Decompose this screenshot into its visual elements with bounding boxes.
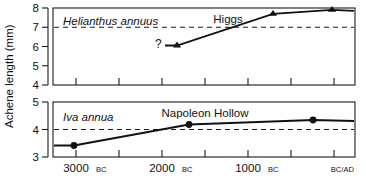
- upper-ytick-label-8: 8: [33, 2, 39, 14]
- lower-panel-y-axis: 5 4 3: [33, 96, 48, 163]
- x-axis-labels: 3000 BC 2000 BC 1000 BC BC/AD: [63, 162, 354, 174]
- lower-ytick-label-3: 3: [33, 151, 39, 163]
- lower-panel-site-label: Napoleon Hollow: [162, 107, 250, 119]
- achene-length-figure: Achene length (mm) 8 7 6 5 4: [0, 0, 366, 181]
- upper-ytick-label-5: 5: [33, 60, 39, 72]
- lower-panel-x-ticks: [76, 150, 334, 157]
- upper-ytick-label-4: 4: [33, 79, 40, 91]
- upper-ytick-label-7: 7: [33, 21, 39, 33]
- xtick-era-3000: BC: [96, 165, 107, 174]
- upper-panel: 8 7 6 5 4 Helianthus annuus: [33, 2, 355, 91]
- upper-panel-site-label: Higgs: [213, 13, 243, 25]
- chart-svg: Achene length (mm) 8 7 6 5 4: [0, 0, 366, 181]
- xtick-label-3000: 3000: [63, 162, 89, 174]
- upper-data-point-3: [328, 6, 336, 12]
- lower-ytick-label-5: 5: [33, 96, 39, 108]
- xtick-label-2000: 2000: [149, 162, 175, 174]
- lower-series-line: [54, 120, 354, 146]
- lower-panel: 5 4 3 Iva annua Napoleon Hollow: [33, 96, 355, 163]
- upper-panel-y-axis: 8 7 6 5 4: [33, 2, 48, 91]
- x-axis-label-group-bcad: BC/AD: [331, 165, 355, 174]
- xtick-era-2000: BC: [182, 165, 193, 174]
- xtick-label-1000: 1000: [235, 162, 261, 174]
- xtick-era-1000: BC: [268, 165, 279, 174]
- lower-data-point-2: [186, 121, 193, 128]
- upper-ytick-label-6: 6: [33, 41, 39, 53]
- lower-data-point-3: [310, 117, 317, 124]
- lower-data-point-1: [71, 142, 78, 149]
- y-axis-title-text: Achene length (mm): [3, 24, 15, 128]
- y-axis-title: Achene length (mm): [3, 24, 15, 128]
- x-axis-label-group-2000bc: 2000 BC: [149, 162, 193, 174]
- xtick-label-bcad: BC/AD: [331, 165, 355, 174]
- upper-panel-taxon-label: Helianthus annuus: [63, 15, 159, 27]
- x-axis-label-group-3000bc: 3000 BC: [63, 162, 107, 174]
- lower-ytick-label-4: 4: [33, 124, 40, 136]
- lower-panel-taxon-label: Iva annua: [63, 111, 114, 123]
- upper-panel-x-ticks: [76, 78, 334, 85]
- x-axis-label-group-1000bc: 1000 BC: [235, 162, 279, 174]
- upper-panel-query-marker: ?: [155, 37, 162, 51]
